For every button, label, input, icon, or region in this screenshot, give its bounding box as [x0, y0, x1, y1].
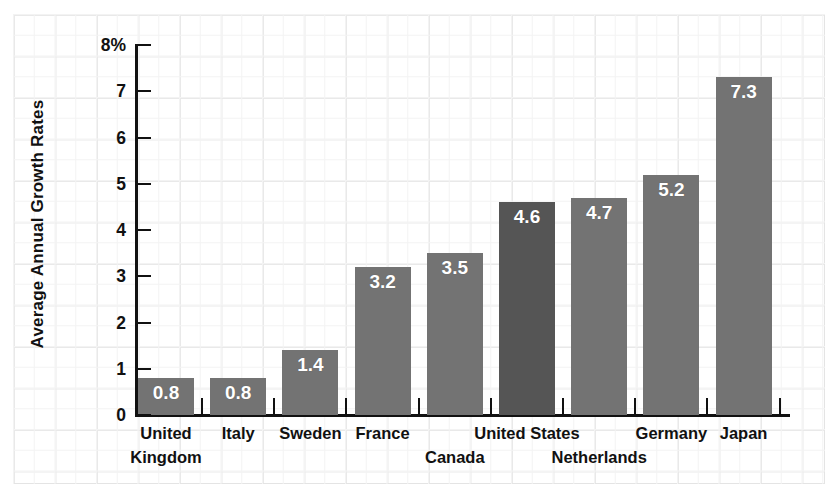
- y-tick-mark-4: [138, 229, 151, 231]
- x-tick-mark: [273, 398, 275, 416]
- bar-japan[interactable]: 7.3: [716, 77, 772, 415]
- bar-value-label: 3.2: [355, 271, 411, 293]
- y-tick-mark-2: [138, 322, 151, 324]
- x-tick-mark: [135, 398, 137, 416]
- x-tick-mark: [345, 398, 347, 416]
- bar-value-label: 1.4: [282, 354, 338, 376]
- y-tick-mark-8: [138, 44, 151, 46]
- x-axis-category-labels: UnitedKingdomItalySwedenFranceCanadaUnit…: [0, 420, 837, 490]
- x-tick-mark: [490, 398, 492, 416]
- x-label-united-kingdom: Kingdom: [76, 448, 256, 467]
- x-label-japan: Japan: [654, 424, 834, 443]
- bar-value-label: 4.6: [499, 206, 555, 228]
- bar-sweden[interactable]: 1.4: [282, 350, 338, 415]
- x-tick-mark: [201, 398, 203, 416]
- bar-value-label: 5.2: [643, 179, 699, 201]
- y-tick-mark-3: [138, 275, 151, 277]
- bar-value-label: 0.8: [210, 382, 266, 404]
- bars-group: 0.80.81.43.23.54.64.75.27.3: [0, 0, 837, 417]
- x-label-netherlands: Netherlands: [509, 448, 689, 467]
- bar-value-label: 0.8: [138, 382, 194, 404]
- x-tick-mark: [634, 398, 636, 416]
- y-tick-mark-1: [138, 368, 151, 370]
- bar-italy[interactable]: 0.8: [210, 378, 266, 415]
- x-tick-mark: [418, 398, 420, 416]
- bar-united-states[interactable]: 4.6: [499, 202, 555, 415]
- bar-germany[interactable]: 5.2: [643, 175, 699, 416]
- bar-value-label: 7.3: [716, 81, 772, 103]
- x-tick-mark: [779, 398, 781, 416]
- y-tick-mark-7: [138, 90, 151, 92]
- y-tick-mark-5: [138, 183, 151, 185]
- bar-netherlands[interactable]: 4.7: [571, 198, 627, 415]
- bar-united-kingdom[interactable]: 0.8: [138, 378, 194, 415]
- y-tick-mark-6: [138, 137, 151, 139]
- bar-canada[interactable]: 3.5: [427, 253, 483, 415]
- x-tick-mark: [706, 398, 708, 416]
- bar-value-label: 3.5: [427, 257, 483, 279]
- bar-value-label: 4.7: [571, 202, 627, 224]
- x-tick-mark: [562, 398, 564, 416]
- bar-chart: Average Annual Growth Rates 012345678% 0…: [0, 0, 837, 503]
- y-tick-mark-0: [138, 414, 151, 416]
- bar-france[interactable]: 3.2: [355, 267, 411, 415]
